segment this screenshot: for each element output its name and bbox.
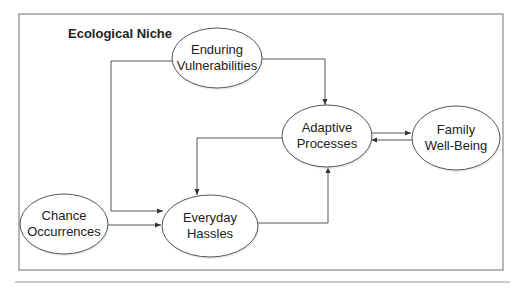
svg-text:Family: Family [437,122,476,137]
node-chance-occurrences: Chance Occurrences [20,194,109,256]
svg-text:Hassles: Hassles [187,226,234,241]
edge-enduring-to-adaptive [262,59,325,105]
node-enduring-vulnerabilities: Enduring Vulnerabilities [172,28,263,90]
svg-text:Well-Being: Well-Being [425,138,488,153]
svg-text:Processes: Processes [297,136,358,151]
node-everyday-hassles: Everyday Hassles [162,195,259,259]
diagram-canvas: Ecological Niche Enduring Vulnerabilitie… [0,0,522,288]
edge-enduring-to-everyday [111,61,172,211]
edge-adaptive-to-everyday [197,138,282,195]
svg-text:Enduring: Enduring [191,42,243,57]
frame-title: Ecological Niche [68,26,172,41]
edge-everyday-to-adaptive [258,167,328,223]
svg-text:Adaptive: Adaptive [302,120,353,135]
node-family-well-being: Family Well-Being [412,106,501,172]
svg-text:Everyday: Everyday [183,210,238,225]
node-adaptive-processes: Adaptive Processes [282,105,373,169]
svg-text:Vulnerabilities: Vulnerabilities [177,58,258,73]
svg-text:Occurrences: Occurrences [27,224,101,239]
svg-text:Chance: Chance [42,208,87,223]
